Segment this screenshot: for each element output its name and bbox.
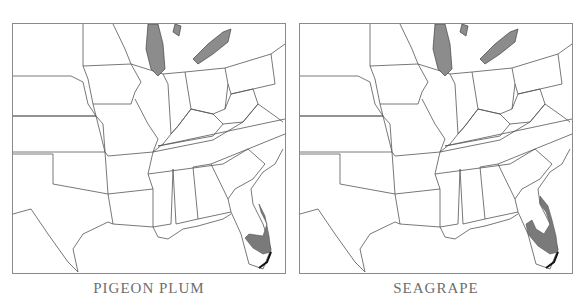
map-panel-seagrape (299, 23, 573, 274)
caption-seagrape: SEAGRAPE (299, 280, 573, 297)
great-lakes (146, 24, 231, 76)
map-eastern-us (300, 24, 573, 274)
caption-pigeon-plum: PIGEON PLUM (12, 280, 286, 297)
species-range (526, 196, 558, 268)
map-eastern-us (13, 24, 286, 274)
map-panel-pigeon-plum (12, 23, 286, 274)
great-lakes (433, 24, 518, 76)
